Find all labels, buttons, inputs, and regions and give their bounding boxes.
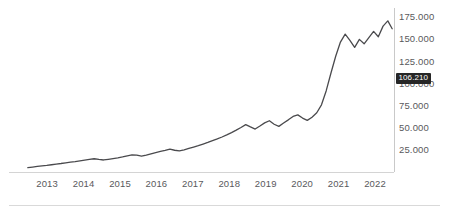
x-tick-2014: 2014 bbox=[73, 179, 95, 189]
x-tick-2013: 2013 bbox=[36, 179, 58, 189]
chart-container: 25.00050.00075.000100.000125.000150.0001… bbox=[0, 0, 449, 214]
y-tick-125000: 125.000 bbox=[399, 57, 434, 67]
y-tick-50000: 50.000 bbox=[399, 123, 429, 133]
x-tick-2021: 2021 bbox=[328, 179, 350, 189]
y-tick-25000: 25.000 bbox=[399, 145, 429, 155]
x-tick-2018: 2018 bbox=[218, 179, 240, 189]
x-tick-2022: 2022 bbox=[364, 179, 386, 189]
x-tick-2019: 2019 bbox=[255, 179, 277, 189]
x-tick-2016: 2016 bbox=[146, 179, 168, 189]
x-tick-2015: 2015 bbox=[109, 179, 131, 189]
footer-divider bbox=[9, 205, 440, 206]
y-tick-175000: 175.000 bbox=[399, 12, 434, 22]
y-tick-75000: 75.000 bbox=[399, 101, 429, 111]
y-tick-150000: 150.000 bbox=[399, 34, 434, 44]
x-tick-2020: 2020 bbox=[291, 179, 313, 189]
series-line-index bbox=[28, 21, 392, 168]
x-tick-2017: 2017 bbox=[182, 179, 204, 189]
last-value-badge: 106.210 bbox=[396, 73, 431, 84]
